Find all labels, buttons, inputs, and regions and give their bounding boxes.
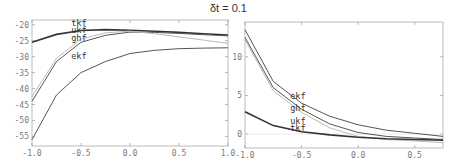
series-label-ghf: ghf — [71, 33, 86, 43]
series-ghf — [32, 31, 228, 96]
x-tick-label: 1.0 — [221, 149, 236, 158]
x-tick-label: -1.0 — [235, 151, 254, 160]
y-tick-label: -55 — [15, 132, 30, 141]
y-tick-label: 0 — [237, 130, 242, 139]
x-tick-label: 0.5 — [172, 149, 187, 158]
series-label-ekf: ekf — [290, 91, 305, 101]
series-tkf — [245, 112, 443, 141]
x-tick-label: 0.0 — [351, 151, 366, 160]
x-tick-label: -0.5 — [71, 149, 90, 158]
series-ekf — [245, 30, 443, 137]
plot-frame — [32, 20, 228, 146]
y-tick-label: -20 — [15, 21, 30, 30]
x-tick-label: -0.5 — [292, 151, 311, 160]
y-tick-label: -45 — [15, 101, 30, 110]
right-panel: -1.0-0.50.00.51050ekfghfukftkf — [232, 22, 443, 160]
plot-frame — [245, 22, 443, 148]
series-ukf — [245, 40, 443, 143]
series-label-tkf: tkf — [290, 123, 305, 133]
y-tick-label: -50 — [15, 116, 30, 125]
y-tick-label: -30 — [15, 53, 30, 62]
y-tick-label: -25 — [15, 37, 30, 46]
chart-canvas: -1.0-0.50.00.51.0-20-25-30-35-40-45-50-5… — [0, 0, 457, 165]
series-label-ekf: ekf — [71, 51, 86, 61]
x-tick-label: -1.0 — [22, 149, 41, 158]
x-tick-label: 0.5 — [407, 151, 422, 160]
y-tick-label: 10 — [232, 53, 242, 62]
left-panel: -1.0-0.50.00.51.0-20-25-30-35-40-45-50-5… — [15, 18, 236, 158]
series-label-ghf: ghf — [290, 103, 305, 113]
series-ekf — [32, 48, 228, 140]
y-tick-label: 5 — [237, 91, 242, 100]
y-tick-label: -35 — [15, 69, 30, 78]
series-ghf — [245, 38, 443, 140]
x-tick-label: 0.0 — [123, 149, 138, 158]
y-tick-label: -40 — [15, 85, 30, 94]
